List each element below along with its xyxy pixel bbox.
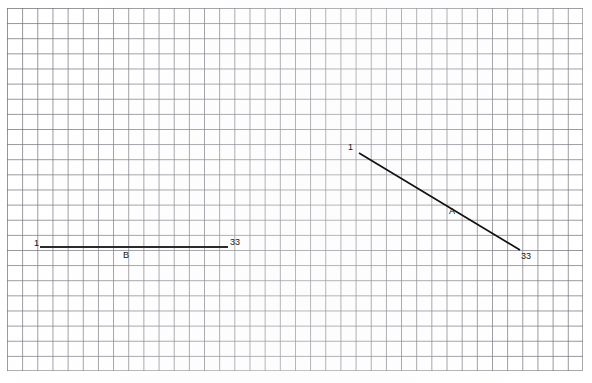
- line-segment-a: [359, 153, 520, 250]
- line-segments-plot: [0, 0, 592, 383]
- figure-canvas: 1 A 33 1 B 33: [0, 0, 592, 383]
- line-a-start-label: 1: [348, 143, 353, 152]
- line-a-name-label: A: [449, 207, 455, 216]
- line-b-end-label: 33: [230, 238, 240, 247]
- line-b-start-label: 1: [34, 239, 39, 248]
- line-a-end-label: 33: [521, 252, 531, 261]
- line-b-name-label: B: [123, 251, 129, 260]
